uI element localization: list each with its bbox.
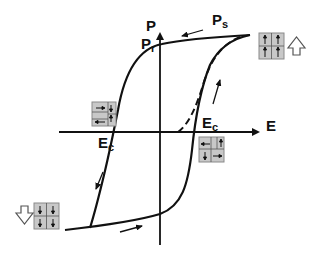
- domain-box-saturated-up: [259, 33, 284, 59]
- coercive-right-main: E: [202, 114, 212, 131]
- domain-box-saturated-down: [34, 203, 59, 229]
- coercive-field-left-label: Ec: [98, 135, 114, 153]
- coercive-right-sub: c: [212, 121, 218, 133]
- down-arrow-icon: [16, 206, 33, 224]
- domain-box-mixed-left: [92, 102, 116, 126]
- arrow-along-top: [182, 30, 203, 36]
- remanent-main: P: [141, 35, 151, 52]
- x-axis-label: E: [266, 118, 276, 133]
- y-axis-label: P: [146, 18, 156, 33]
- saturation-polarization-label: Ps: [212, 12, 228, 30]
- remanent-sub: r: [151, 42, 155, 54]
- saturation-main: P: [212, 11, 222, 28]
- saturation-sub: s: [222, 18, 228, 30]
- remanent-polarization-label: Pr: [141, 36, 155, 54]
- arrow-along-bottom: [120, 226, 142, 232]
- coercive-left-main: E: [98, 134, 108, 151]
- up-arrow-icon: [288, 37, 305, 55]
- arrow-right-up: [213, 80, 220, 104]
- coercive-field-right-label: Ec: [202, 115, 218, 133]
- coercive-left-sub: c: [108, 141, 114, 153]
- domain-box-mixed-right: [199, 137, 224, 162]
